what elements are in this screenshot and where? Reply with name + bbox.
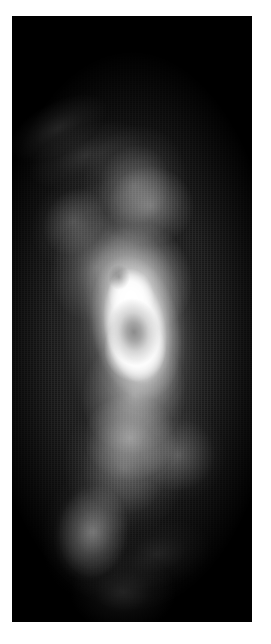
emission-blob-core-inner xyxy=(95,267,176,388)
emission-blob-upper-plume-knot xyxy=(104,162,198,251)
emission-blob-bottom-faint-extension-2 xyxy=(96,509,218,598)
emission-blob-core-peak-south xyxy=(101,313,170,385)
emission-blob-bottom-faint-extension xyxy=(70,552,176,622)
emission-layer xyxy=(12,16,252,622)
emission-blob-core-peak-north xyxy=(102,263,160,327)
emission-blob-inner-shell-arc-upper xyxy=(79,208,209,346)
core-dark-depression xyxy=(104,295,165,370)
emission-blob-outer-halo xyxy=(24,148,239,520)
emission-blob-inner-shell-arc-lower xyxy=(71,326,197,463)
sky-image-panel xyxy=(12,16,252,622)
emission-blob-lower-left-tail xyxy=(31,459,148,606)
emission-blob-core-outer xyxy=(78,246,195,409)
secondary-dark-knot xyxy=(108,264,130,290)
emission-blob-upper-left-faint-wisp-2 xyxy=(20,107,153,203)
emission-blob-upper-plume xyxy=(65,111,202,261)
emission-blob-lower-left-tail-bright xyxy=(53,482,134,581)
emission-blob-lower-plume-bright xyxy=(81,391,179,485)
emission-blob-upper-left-streamer-2 xyxy=(33,199,158,335)
emission-blob-lower-plume xyxy=(49,388,198,549)
emission-blob-upper-left-streamer xyxy=(14,160,135,285)
emission-blob-lower-right-lobe xyxy=(130,408,226,502)
emission-blob-upper-left-faint-wisp xyxy=(12,80,118,177)
emission-blob-inner-shell-arc xyxy=(62,200,210,432)
figure-root xyxy=(0,0,271,644)
